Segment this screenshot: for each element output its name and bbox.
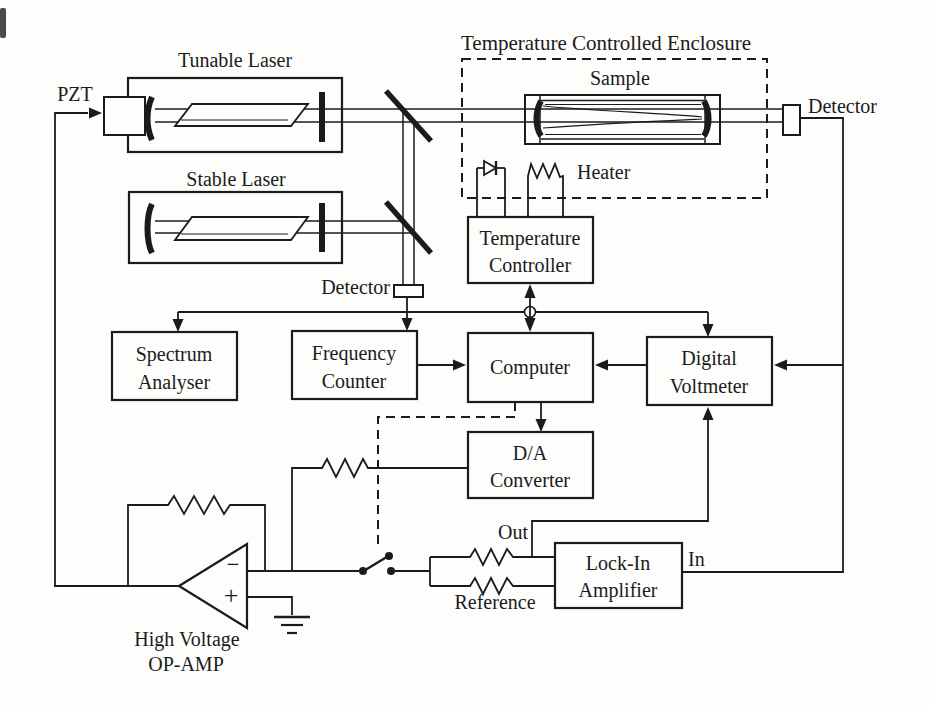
digital-voltmeter-label-1: Digital <box>681 347 737 370</box>
in-label: In <box>688 548 705 570</box>
scan-artifact <box>0 8 6 38</box>
pzt-actuator <box>104 97 145 135</box>
switch-closed-contact <box>387 567 395 575</box>
spectrum-analyser-label-1: Spectrum <box>136 343 213 366</box>
digital-voltmeter-box: Digital Voltmeter <box>647 337 772 405</box>
frequency-counter-box: Frequency Counter <box>292 331 417 399</box>
digital-voltmeter-label-2: Voltmeter <box>670 375 749 397</box>
da-converter-label-1: D/A <box>513 442 548 464</box>
temperature-controller-label-2: Controller <box>489 254 572 276</box>
da-converter-box: D/A Converter <box>468 432 593 498</box>
lock-in-label-2: Amplifier <box>579 579 658 602</box>
computer-label: Computer <box>490 356 570 379</box>
frequency-counter-label-2: Counter <box>322 370 387 392</box>
stable-gain-tube <box>175 217 308 240</box>
tunable-laser-label: Tunable Laser <box>178 49 293 71</box>
op-amp-label: OP-AMP <box>148 653 224 675</box>
computer-box: Computer <box>468 333 593 402</box>
tunable-gain-tube <box>175 104 308 126</box>
out-label: Out <box>498 521 528 543</box>
temperature-controller-label-1: Temperature <box>480 227 581 250</box>
detector-mid-label: Detector <box>321 276 390 298</box>
frequency-counter-label-1: Frequency <box>312 342 396 365</box>
detector-top-label: Detector <box>808 95 877 117</box>
high-voltage-label: High Voltage <box>134 628 239 651</box>
lock-in-amplifier-box: Lock-In Amplifier <box>555 543 682 608</box>
detector-top-body <box>783 105 800 135</box>
lock-in-label-1: Lock-In <box>586 552 650 574</box>
spectrum-analyser-label-2: Analyser <box>138 371 211 394</box>
stable-laser-label: Stable Laser <box>186 168 286 190</box>
enclosure-title: Temperature Controlled Enclosure <box>461 31 751 55</box>
spectrum-analyser-box: Spectrum Analyser <box>112 332 237 400</box>
inverting-sign: − <box>227 552 240 577</box>
da-converter-label-2: Converter <box>490 469 570 491</box>
temperature-controller-box: Temperature Controller <box>468 217 593 283</box>
scanned-figure-page: Temperature Controlled Enclosure <box>0 0 929 708</box>
pzt-label: PZT <box>57 83 93 105</box>
reference-label: Reference <box>454 591 535 613</box>
noninverting-sign: + <box>224 581 239 610</box>
heater-label: Heater <box>577 161 631 183</box>
sample-label: Sample <box>590 67 650 90</box>
experiment-block-diagram: Temperature Controlled Enclosure <box>0 0 929 708</box>
detector-mid-body <box>394 285 423 297</box>
